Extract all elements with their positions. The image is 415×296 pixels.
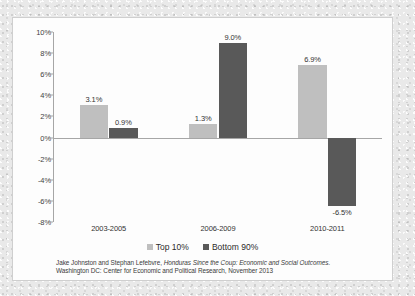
bars-container: 3.1%0.9%1.3%9.0%6.9%-6.5% bbox=[54, 32, 382, 222]
bar-value-label: 6.9% bbox=[288, 55, 337, 64]
legend-label: Bottom 90% bbox=[212, 242, 258, 252]
bar-value-label: 3.1% bbox=[69, 95, 118, 104]
caption-line-2: Washington DC: Center for Economic and P… bbox=[56, 267, 380, 275]
legend-item[interactable]: Bottom 90% bbox=[203, 242, 258, 252]
caption-title: Honduras Since the Coup: Economic and So… bbox=[164, 259, 329, 266]
x-axis-category-label: 2003-2005 bbox=[54, 224, 163, 233]
bar-value-label: 0.9% bbox=[99, 118, 148, 127]
x-axis-category-label: 2006-2009 bbox=[163, 224, 272, 233]
y-axis-tick-mark bbox=[49, 53, 53, 54]
y-axis-tick-mark bbox=[49, 116, 53, 117]
bar bbox=[298, 65, 326, 138]
chart-panel: 10%8%6%4%2%0%-2%-4%-6%-8% 3.1%0.9%1.3%9.… bbox=[12, 17, 393, 281]
y-axis-tick-mark bbox=[49, 179, 53, 180]
legend-swatch-icon bbox=[203, 244, 209, 250]
x-axis-labels: 2003-20052006-20092010-2011 bbox=[54, 224, 382, 238]
caption-period: . bbox=[328, 259, 330, 266]
legend-label: Top 10% bbox=[156, 242, 189, 252]
legend-item[interactable]: Top 10% bbox=[147, 242, 189, 252]
y-axis-tick-mark bbox=[49, 200, 53, 201]
y-axis-tick-mark bbox=[49, 95, 53, 96]
bar-group: 1.3%9.0% bbox=[163, 32, 272, 222]
bar bbox=[189, 124, 217, 138]
y-axis-labels: 10%8%6%4%2%0%-2%-4%-6%-8% bbox=[19, 32, 51, 222]
y-axis-tick-mark bbox=[49, 74, 53, 75]
bar bbox=[328, 138, 356, 207]
legend-swatch-icon bbox=[147, 244, 153, 250]
x-axis-category-label: 2010-2011 bbox=[273, 224, 382, 233]
bar-group: 6.9%-6.5% bbox=[273, 32, 382, 222]
bar-value-label: -6.5% bbox=[317, 208, 366, 217]
y-axis-tick-mark bbox=[49, 32, 53, 33]
chart-caption: Jake Johnston and Stephan Lefebvre, Hond… bbox=[56, 259, 380, 276]
caption-authors: Jake Johnston and Stephan Lefebvre, bbox=[56, 259, 164, 266]
bar-value-label: 9.0% bbox=[208, 33, 257, 42]
plot-area: 10%8%6%4%2%0%-2%-4%-6%-8% 3.1%0.9%1.3%9.… bbox=[13, 18, 392, 280]
bar bbox=[219, 43, 247, 138]
bar bbox=[109, 128, 137, 138]
caption-line-1: Jake Johnston and Stephan Lefebvre, Hond… bbox=[56, 259, 380, 267]
chart-legend: Top 10%Bottom 90% bbox=[13, 242, 392, 252]
y-axis-tick-mark bbox=[49, 137, 53, 138]
bar-group: 3.1%0.9% bbox=[54, 32, 163, 222]
y-axis-tick-mark bbox=[49, 158, 53, 159]
y-axis-tick-mark bbox=[49, 222, 53, 223]
